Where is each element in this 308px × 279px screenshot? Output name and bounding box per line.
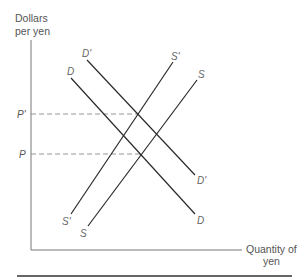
label-d-prime-top: D' — [82, 48, 92, 59]
supply-demand-chart: Dollars per yen Quantity of yen P' P D D… — [0, 0, 308, 279]
x-axis-label-line2: yen — [263, 255, 280, 267]
label-s-top: S — [198, 69, 205, 80]
label-d-prime-bottom: D' — [197, 175, 207, 186]
label-d-bottom: D — [197, 215, 204, 226]
y-axis-label-line1: Dollars — [15, 12, 48, 24]
label-s-prime-bottom: S' — [62, 216, 72, 227]
supply-curve-s-prime — [71, 62, 173, 214]
label-s-bottom: S — [80, 228, 87, 239]
supply-curve-s — [88, 80, 197, 226]
x-axis-label-line1: Quantity of — [246, 243, 297, 255]
price-label-p-prime: P' — [17, 109, 27, 120]
label-d-top: D — [67, 66, 74, 77]
y-axis-label-line2: per yen — [15, 25, 50, 37]
label-s-prime-top: S' — [171, 51, 181, 62]
demand-curve-d — [71, 78, 195, 214]
demand-curve-d-prime — [87, 60, 195, 175]
price-label-p: P — [19, 149, 26, 160]
